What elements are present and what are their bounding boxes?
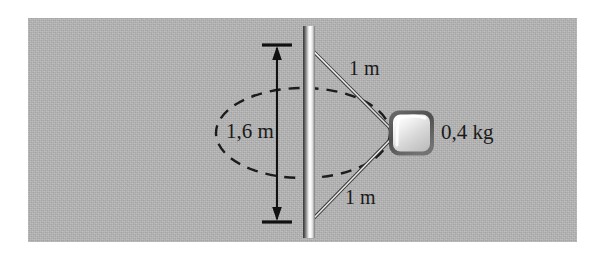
string-lower xyxy=(309,137,393,223)
string-length-bottom-label: 1 m xyxy=(345,187,376,207)
mass-block xyxy=(389,111,434,156)
mass-value-label: 0,4 kg xyxy=(441,122,494,143)
circle-diameter-label: 1,6 m xyxy=(226,121,274,142)
string-length-top-label: 1 m xyxy=(349,58,380,78)
vertical-rod xyxy=(304,26,315,238)
physics-diagram-figure: 1,6 m 1 m 1 m 0,4 kg xyxy=(0,0,599,256)
diagram-vector-layer xyxy=(0,0,599,256)
